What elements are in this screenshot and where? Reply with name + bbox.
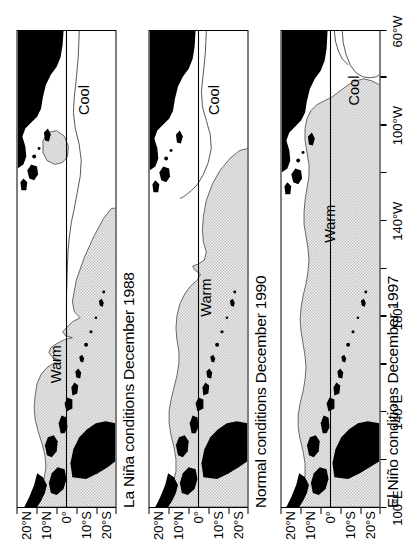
panel-title-la-nina-1988: La Niña conditions December 1988: [120, 272, 136, 508]
lat-label-10N: 10°N: [172, 511, 185, 540]
map-plot-normal-1990: Warm Cool: [148, 30, 248, 508]
lat-label-10S: 10°S: [212, 511, 225, 539]
lat-label-10N: 10°N: [304, 511, 317, 540]
lon-label-100W: 100°W: [390, 106, 403, 145]
annotation-cool-panel-2: Cool: [206, 85, 221, 115]
land-masses-americas: [149, 31, 195, 192]
latitude-axis-panel-3: 20°N 10°N 0° 10°S 20°S: [280, 508, 380, 544]
cool-sliver-outline: [342, 31, 379, 78]
lon-label-60W: 60°W: [390, 15, 403, 47]
lat-label-0: 0°: [192, 511, 205, 523]
lon-label-140W: 140°W: [390, 202, 403, 241]
land-masses-americas: [17, 31, 63, 190]
cool-sliver-outline-b: [334, 31, 348, 65]
lat-label-0: 0°: [60, 511, 73, 523]
figure-canvas: 20°N 10°N 0° 10°S 20°S: [0, 0, 415, 546]
annotation-cool-panel-3: Cool: [346, 76, 361, 106]
lat-label-20N: 20°N: [20, 511, 33, 540]
lat-label-10S: 10°S: [344, 511, 357, 539]
annotation-warm-panel-3: Warm: [323, 205, 338, 243]
lat-label-10S: 10°S: [80, 511, 93, 539]
map-plot-el-nino-1997: Warm Cool: [280, 30, 380, 508]
map-plot-la-nina-1988: Warm Cool: [16, 30, 116, 508]
lat-label-20S: 20°S: [232, 511, 245, 539]
lat-label-0: 0°: [324, 511, 337, 523]
annotation-warm-panel-2: Warm: [199, 279, 214, 317]
lon-label-140E: 140°E: [390, 395, 403, 431]
annotation-warm-panel-1: Warm: [49, 345, 64, 383]
lat-label-20S: 20°S: [364, 511, 377, 539]
latitude-axis-panel-1: 20°N 10°N 0° 10°S 20°S: [16, 508, 116, 544]
latitude-axis-panel-2: 20°N 10°N 0° 10°S 20°S: [148, 508, 248, 544]
cold-tongue-outline: [66, 31, 81, 292]
lat-label-20N: 20°N: [284, 511, 297, 540]
annotation-cool-panel-1: Cool: [76, 85, 91, 115]
longitude-axis: 100°E 140°E 180° 140°W 100°W 60°W: [380, 30, 414, 508]
lon-label-100E: 100°E: [390, 490, 403, 526]
lat-label-10N: 10°N: [40, 511, 53, 540]
lat-label-20N: 20°N: [152, 511, 165, 540]
panel-title-normal-1990: Normal conditions December 1990: [252, 276, 268, 508]
lon-label-180: 180°: [390, 303, 403, 330]
lat-label-20S: 20°S: [100, 511, 113, 539]
